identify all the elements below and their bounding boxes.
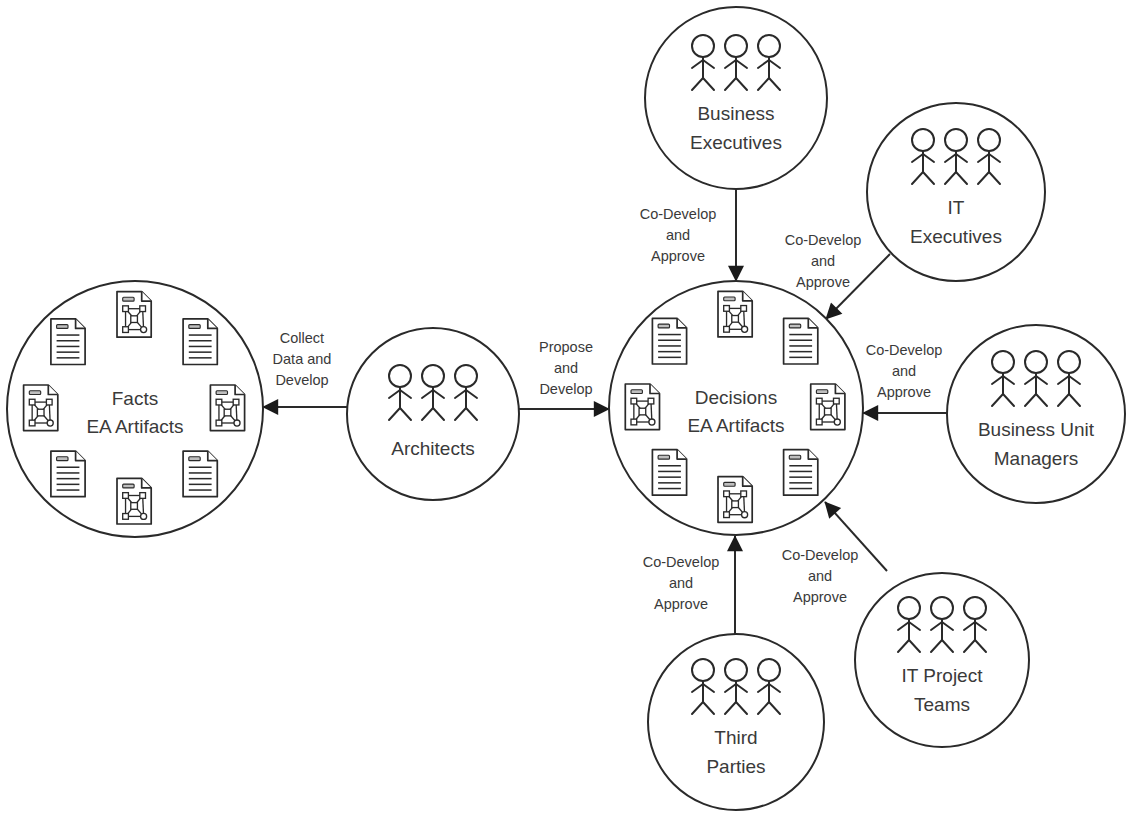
edge-label: Co-Develop — [782, 547, 859, 563]
ea-stakeholder-diagram: CollectData andDevelopProposeandDevelopC… — [0, 0, 1130, 814]
network-diagram-document-icon — [811, 384, 845, 430]
text-document-icon — [51, 451, 85, 497]
network-diagram-document-icon — [625, 384, 659, 430]
node-circle — [347, 328, 519, 500]
node-label: Teams — [914, 694, 970, 715]
node-circle — [855, 573, 1029, 747]
text-document-icon — [183, 451, 217, 497]
node-label: Third — [714, 727, 757, 748]
network-diagram-document-icon — [210, 385, 244, 431]
node-label: Managers — [994, 448, 1079, 469]
node-label: Executives — [690, 132, 782, 153]
text-document-icon — [784, 318, 818, 364]
edge-business-unit-managers-to-decisions: Co-DevelopandApprove — [863, 342, 947, 413]
node-third-parties[interactable]: ThirdParties — [648, 634, 824, 810]
edge-label: Develop — [275, 372, 328, 388]
edge-architects-to-decisions: ProposeandDevelop — [519, 339, 609, 409]
node-label: Executives — [910, 226, 1002, 247]
node-label: Architects — [391, 438, 474, 459]
node-label: EA Artifacts — [86, 416, 183, 437]
node-decisions[interactable]: DecisionsEA Artifacts — [609, 281, 863, 535]
edge-label: Develop — [539, 381, 592, 397]
edge-label: and — [811, 253, 835, 269]
node-label: Decisions — [695, 387, 777, 408]
edge-label: and — [554, 360, 578, 376]
network-diagram-document-icon — [24, 385, 58, 431]
edge-label: Approve — [651, 248, 705, 264]
text-document-icon — [784, 450, 818, 496]
node-architects[interactable]: Architects — [347, 328, 519, 500]
edge-label: and — [666, 227, 690, 243]
node-business-unit-managers[interactable]: Business UnitManagers — [947, 325, 1125, 503]
node-facts[interactable]: FactsEA Artifacts — [7, 281, 263, 537]
text-document-icon — [652, 450, 686, 496]
network-diagram-document-icon — [117, 478, 151, 524]
edge-label: Co-Develop — [643, 554, 720, 570]
node-it-executives[interactable]: ITExecutives — [867, 103, 1045, 281]
node-label: EA Artifacts — [687, 415, 784, 436]
edge-label: Approve — [796, 274, 850, 290]
edge-third-parties-to-decisions: Co-DevelopandApprove — [643, 536, 735, 634]
network-diagram-document-icon — [718, 477, 752, 523]
text-document-icon — [51, 319, 85, 365]
node-business-executives[interactable]: BusinessExecutives — [645, 7, 827, 189]
node-label: Facts — [112, 388, 158, 409]
edge-label: Approve — [793, 589, 847, 605]
edge-architects-to-facts: CollectData andDevelop — [263, 330, 347, 407]
edge-label: and — [808, 568, 832, 584]
edge-label: Approve — [654, 596, 708, 612]
edge-label: Co-Develop — [866, 342, 943, 358]
node-label: Parties — [706, 756, 765, 777]
node-label: IT Project — [902, 665, 984, 686]
edge-label: Data and — [273, 351, 332, 367]
edge-business-executives-to-decisions: Co-DevelopandApprove — [640, 189, 736, 281]
node-label: Business — [697, 103, 774, 124]
edge-label: and — [669, 575, 693, 591]
network-diagram-document-icon — [117, 292, 151, 338]
edge-label: Approve — [877, 384, 931, 400]
edge-label: and — [892, 363, 916, 379]
node-it-project-teams[interactable]: IT ProjectTeams — [855, 573, 1029, 747]
edge-label: Collect — [280, 330, 324, 346]
node-circle — [648, 634, 824, 810]
network-diagram-document-icon — [718, 291, 752, 337]
text-document-icon — [183, 319, 217, 365]
edge-label: Propose — [539, 339, 593, 355]
text-document-icon — [652, 318, 686, 364]
edge-label: Co-Develop — [640, 206, 717, 222]
edge-label: Co-Develop — [785, 232, 862, 248]
node-label: Business Unit — [978, 419, 1095, 440]
node-label: IT — [948, 197, 965, 218]
